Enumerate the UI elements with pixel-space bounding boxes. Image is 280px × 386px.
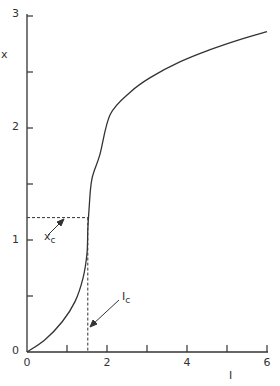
y-tick-label-2: 2 <box>5 121 19 132</box>
x-tick-label-4: 4 <box>179 357 195 368</box>
chart-plot-area <box>0 0 280 386</box>
x-tick-label-2: 2 <box>99 357 115 368</box>
y-tick-label-3: 3 <box>5 8 19 19</box>
y-axis-title: x <box>1 49 8 60</box>
x-axis-title: I <box>229 370 232 381</box>
ic-annotation: Ic <box>122 291 130 305</box>
data-curve <box>27 32 267 352</box>
xc-annotation-sub: c <box>51 235 56 245</box>
x-tick-label-6: 6 <box>259 357 275 368</box>
ic-arrow <box>92 300 119 325</box>
y-tick-label-1: 1 <box>5 234 19 245</box>
ic-annotation-sub: c <box>125 295 130 305</box>
x-tick-label-0: 0 <box>19 357 35 368</box>
xc-annotation: xc <box>44 231 55 245</box>
y-tick-label-0: 0 <box>5 345 19 356</box>
